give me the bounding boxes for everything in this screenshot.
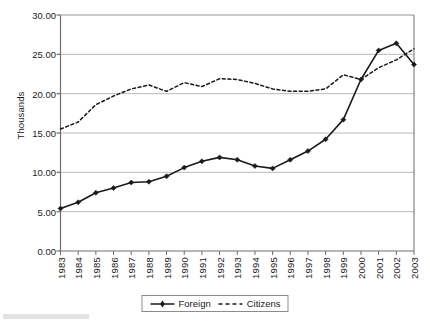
data-point-marker [58, 206, 63, 211]
data-point-marker [182, 165, 187, 170]
x-tick-label: 1985 [91, 257, 102, 279]
chart-figure: Thousands 30.00 25.00 20.00 15.00 10.00 … [0, 0, 430, 321]
data-point-marker [288, 157, 293, 162]
series-path-foreign [61, 43, 415, 208]
legend-swatch-foreign-icon [149, 299, 175, 309]
x-tick-label: 1997 [303, 257, 314, 279]
x-tick-label: 1999 [338, 257, 349, 279]
x-tick-label: 1991 [197, 257, 208, 279]
data-point-marker [270, 166, 275, 171]
legend-entry-citizens: Citizens [218, 298, 281, 309]
legend-entry-foreign: Foreign [149, 298, 210, 309]
x-tick-label: 2003 [409, 257, 420, 279]
x-tick-label: 1989 [162, 257, 173, 279]
legend-label-citizens: Citizens [247, 298, 281, 309]
x-tick-label: 1983 [56, 257, 67, 279]
x-tick-label: 1988 [144, 257, 155, 279]
chart-legend: Foreign Citizens [141, 295, 288, 312]
data-point-marker [199, 159, 204, 164]
data-point-marker [164, 174, 169, 179]
x-tick-label: 1998 [321, 257, 332, 279]
legend-swatch-citizens-icon [218, 299, 244, 309]
x-tick-label: 1994 [250, 257, 261, 279]
x-tick-label: 1987 [126, 257, 137, 279]
x-tick-label: 1986 [109, 257, 120, 279]
x-tick-label: 2000 [356, 257, 367, 279]
x-tick-label: 2001 [374, 257, 385, 279]
data-point-marker [235, 157, 240, 162]
series-line-citizens [61, 49, 415, 129]
page-artifact [3, 314, 89, 319]
data-point-marker [217, 155, 222, 160]
gridlines [61, 15, 415, 212]
x-tick-label: 1996 [285, 257, 296, 279]
data-point-marker [252, 164, 257, 169]
x-tick-marks [61, 251, 415, 255]
series-line-foreign [58, 41, 417, 211]
data-point-marker [146, 179, 151, 184]
data-point-marker [129, 180, 134, 185]
x-tick-label: 2002 [391, 257, 402, 279]
x-tick-label: 1995 [268, 257, 279, 279]
data-point-marker [111, 186, 116, 191]
series-path-citizens [61, 49, 415, 129]
x-tick-label: 1992 [215, 257, 226, 279]
x-tick-label: 1984 [73, 257, 84, 279]
x-tick-label: 1990 [179, 257, 190, 279]
x-tick-label: 1993 [232, 257, 243, 279]
legend-label-foreign: Foreign [178, 298, 210, 309]
